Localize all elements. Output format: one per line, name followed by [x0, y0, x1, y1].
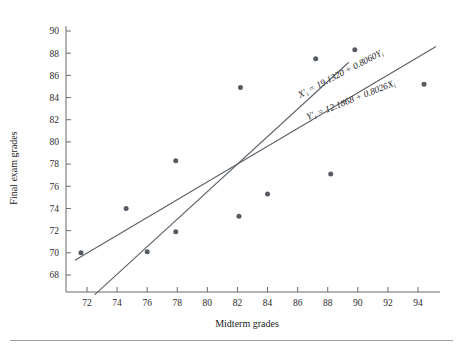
data-point	[352, 47, 357, 52]
data-point	[124, 206, 129, 211]
data-point	[173, 229, 178, 234]
y-axis-title: Final exam grades	[8, 131, 19, 204]
data-point	[265, 192, 270, 197]
regression-x-on-y	[95, 62, 349, 295]
y-tick-label: 80	[50, 137, 60, 147]
footer-divider	[10, 340, 453, 341]
y-tick-label: 72	[50, 226, 60, 236]
y-tick-label: 84	[50, 93, 60, 103]
data-point	[173, 158, 178, 163]
y-tick-label: 86	[50, 71, 60, 81]
data-point	[145, 249, 150, 254]
regression-y-on-x	[75, 47, 436, 261]
x-tick-label: 94	[413, 298, 423, 308]
y-axis-ticks: 687072747678808284868890	[50, 26, 72, 280]
x-axis-ticks: 727476788082848688909294	[82, 287, 423, 308]
y-tick-label: 82	[50, 115, 60, 125]
data-point	[236, 214, 241, 219]
data-point	[313, 56, 318, 61]
y-tick-label: 70	[50, 248, 60, 258]
y-tick-label: 88	[50, 49, 60, 59]
regression-scatter-chart: 727476788082848688909294 687072747678808…	[0, 0, 463, 348]
x-tick-label: 74	[112, 298, 122, 308]
data-points	[78, 47, 426, 255]
y-tick-label: 78	[50, 159, 60, 169]
y-tick-label: 68	[50, 270, 60, 280]
x-tick-label: 84	[263, 298, 273, 308]
axes	[66, 26, 440, 292]
data-point	[422, 82, 427, 87]
data-point	[78, 250, 83, 255]
x-axis-title: Midterm grades	[215, 318, 279, 329]
x-tick-label: 76	[142, 298, 152, 308]
x-tick-label: 72	[82, 298, 92, 308]
y-tick-label: 74	[50, 204, 60, 214]
x-tick-label: 80	[203, 298, 213, 308]
data-point	[328, 172, 333, 177]
x-tick-label: 78	[173, 298, 183, 308]
x-tick-label: 90	[353, 298, 363, 308]
x-tick-label: 92	[383, 298, 393, 308]
x-tick-label: 86	[293, 298, 303, 308]
equation-labels: X′i = 19.1320 + 0.8060YiY′i = 12.1868 + …	[295, 47, 397, 122]
scatter-plot-figure: 727476788082848688909294 687072747678808…	[0, 0, 463, 348]
y-tick-label: 76	[50, 182, 60, 192]
x-tick-label: 82	[233, 298, 243, 308]
y-tick-label: 90	[50, 26, 60, 36]
x-tick-label: 88	[323, 298, 333, 308]
data-point	[238, 85, 243, 90]
